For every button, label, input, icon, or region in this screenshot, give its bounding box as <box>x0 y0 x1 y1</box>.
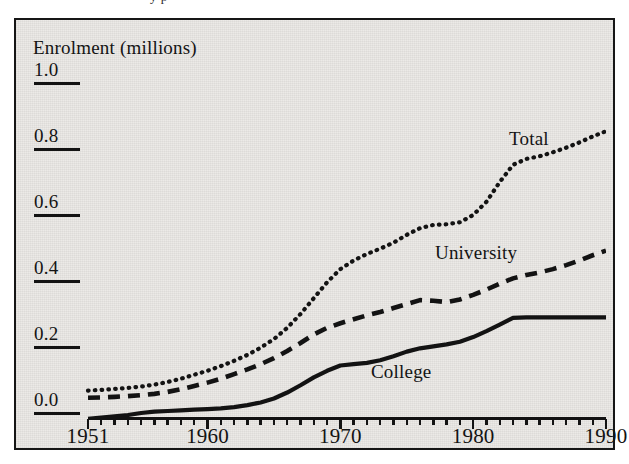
x-axis-tick-label-5: 1990 <box>585 424 628 449</box>
series-annotation-college: College <box>371 361 432 383</box>
page-scan-artifact-text: y p <box>150 0 168 5</box>
x-axis-tick-label-1: 1951 <box>67 424 110 449</box>
y-axis-tick-label: 0.8 <box>34 125 58 146</box>
y-axis-tick-label: 0.4 <box>34 257 58 278</box>
series-line-total <box>88 131 606 390</box>
series-line-university <box>88 251 606 398</box>
x-axis-tick-label-3: 1970 <box>319 424 362 449</box>
y-axis-tick-label: 0.0 <box>34 389 58 410</box>
y-axis-tick-label: 0.6 <box>34 191 58 212</box>
plot-area <box>74 42 606 417</box>
series-annotation-university: University <box>435 242 517 264</box>
line-chart-svg <box>74 42 606 417</box>
series-line-college <box>88 317 606 417</box>
x-axis-tick-label-2: 1960 <box>186 424 229 449</box>
y-axis-tick-label: 0.2 <box>34 323 58 344</box>
y-axis-tick-label: 1.0 <box>34 59 58 80</box>
series-annotation-total: Total <box>509 128 549 150</box>
figure-frame: Enrolment (millions) 1.0 0.8 0.6 0.4 0.2… <box>14 18 615 450</box>
page-scan-artifact: y p <box>0 0 629 16</box>
x-axis-tick-label-4: 1980 <box>452 424 495 449</box>
